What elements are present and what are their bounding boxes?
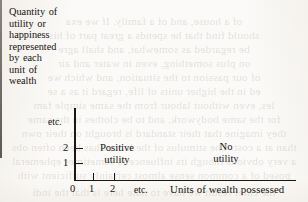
y-axis-line [74,108,76,181]
y-axis-caption-line: represented [9,41,83,53]
region-label-line: Positive [86,142,148,154]
y-axis-caption-line: unit of [9,64,83,76]
y-axis-caption-line: utility or [9,18,83,30]
y-axis-caption-line: Quantity of [9,6,83,18]
y-axis-caption-line: wealth [9,75,83,87]
x-tick-label-2: 2 [110,183,115,194]
region-label-line: utility [86,154,148,166]
bleed-through-line: ed in the higher units of life, regard i… [0,85,308,97]
x-axis-line [74,180,296,182]
x-tick-mark-2 [114,173,115,180]
y-axis-caption-line: happiness [9,29,83,41]
bleed-through-line: than at a cost. The stimulus of the labo… [0,141,308,153]
region-label-line: No [196,141,256,153]
x-tick-mark-1 [93,173,94,180]
bleed-through-line: for the same bodywork, and to be clothes… [0,113,308,125]
y-tick-label-1: 1 [63,157,68,168]
y-tick-label-2: 2 [63,142,68,153]
bleed-through-line: they imagine that their standard is brou… [0,127,308,139]
y-tick-label-etc: etc. [48,116,62,127]
x-tick-label-1: 1 [89,183,94,194]
y-tick-mark-2 [76,148,83,149]
x-tick-label-0: 0 [70,183,75,194]
y-tick-mark-1 [76,163,83,164]
region-label-positive-utility: Positive utility [86,142,148,166]
x-axis-title: Units of wealth possessed [170,183,284,195]
x-tick-label-etc: etc. [134,184,148,195]
y-axis-caption-line: by each [9,52,83,64]
utility-boundary-line [0,0,2,158]
region-label-line: utility [196,153,256,165]
bleed-through-line: les, even without labour from the same s… [0,99,308,111]
bleed-through-line: a very obvious though its influence is s… [0,155,308,167]
region-label-no-utility: No utility [196,141,256,165]
y-axis-caption: Quantity of utility or happiness represe… [9,6,83,87]
utility-of-wealth-figure: of a house, and of a family. If we exa s… [0,0,308,202]
